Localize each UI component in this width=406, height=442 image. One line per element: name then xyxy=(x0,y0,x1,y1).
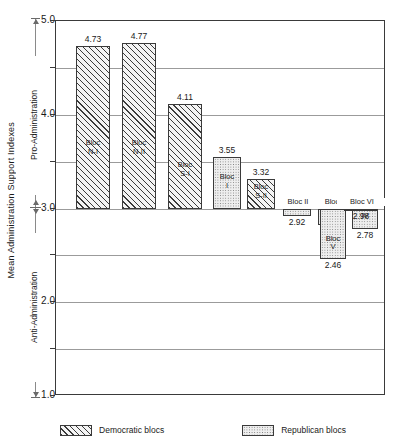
legend-label-republican: Republican blocs xyxy=(281,425,346,435)
bar-label-line2: S-I xyxy=(161,170,209,179)
bar-value-n-ii: 4.77 xyxy=(116,32,162,41)
y-axis-ticks: 5.04.03.02.01.0 xyxy=(20,20,55,395)
bar-value-n-i: 4.73 xyxy=(70,35,116,44)
chart-plot-area: 4.73BlocN-I4.77BlocN-II4.11BlocS-I3.55Bl… xyxy=(55,20,385,395)
bar-label-v: BlocV xyxy=(313,235,353,252)
bar-label-vi: Bloc VI xyxy=(337,198,387,207)
democratic-swatch-icon xyxy=(60,425,92,436)
bar-label-line2: N-I xyxy=(69,148,117,157)
bar-n-i xyxy=(76,46,110,208)
chart-legend: Democratic blocs Republican blocs xyxy=(0,418,406,442)
bar-vi xyxy=(344,209,378,211)
bar-value-s-i: 4.11 xyxy=(162,93,208,102)
bar-value-v: 2.46 xyxy=(314,261,352,270)
bar-label-line2: N-II xyxy=(115,148,163,157)
republican-swatch-icon xyxy=(242,425,274,436)
bar-n-ii xyxy=(122,43,156,209)
bar-value-s-ii: 3.32 xyxy=(241,168,281,177)
bar-label-n-i: BlocN-I xyxy=(69,139,117,156)
y-tick-1 xyxy=(50,395,55,396)
bar-value-i: 3.55 xyxy=(207,146,247,155)
y-axis-title-text: Mean Administration Support Indexes xyxy=(6,122,16,279)
legend-item-republican: Republican blocs xyxy=(242,425,346,436)
y-axis-title: Mean Administration Support Indexes xyxy=(0,0,22,400)
bar-layer: 4.73BlocN-I4.77BlocN-II4.11BlocS-I3.55Bl… xyxy=(56,21,384,394)
bar-ii xyxy=(283,209,311,217)
bar-value-vi: 2.98 xyxy=(338,212,384,221)
legend-item-democratic: Democratic blocs xyxy=(60,425,164,436)
bar-s-i xyxy=(168,104,202,208)
bar-value-ii: 2.92 xyxy=(277,218,317,227)
legend-label-democratic: Democratic blocs xyxy=(99,425,164,435)
bar-label-s-i: BlocS-I xyxy=(161,161,209,178)
bar-label-line2: V xyxy=(313,243,353,252)
bar-label-n-ii: BlocN-II xyxy=(115,139,163,156)
